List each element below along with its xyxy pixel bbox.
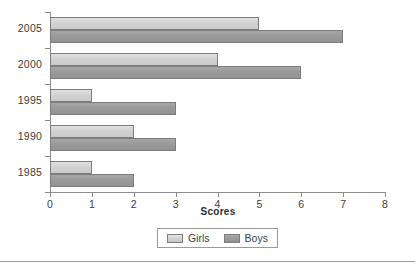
x-axis-tick [134,193,135,197]
legend-entry-girls: Girls [167,232,210,244]
bar-boys-1985 [50,174,134,187]
x-axis-tick [176,193,177,197]
y-axis-label-2000: 2000 [0,58,42,70]
x-axis-tick [385,193,386,197]
legend-swatch-boys-icon [224,234,240,243]
bar-boys-2005 [50,30,343,43]
bar-boys-1990 [50,138,176,151]
legend-label-boys: Boys [245,232,268,244]
bar-girls-1995 [50,89,92,102]
x-axis-title: Scores [50,206,386,217]
bar-boys-2000 [50,66,301,79]
y-axis-label-2005: 2005 [0,22,42,34]
bar-boys-1995 [50,102,176,115]
legend-swatch-girls-icon [167,234,183,243]
x-axis-tick [218,193,219,197]
bar-girls-2005 [50,17,259,30]
y-axis-label-1985: 1985 [0,166,42,178]
x-axis-tick [343,193,344,197]
plot-area [50,12,385,192]
x-axis-tick [92,193,93,197]
x-axis-tick [50,193,51,197]
y-axis-label-1995: 1995 [0,94,42,106]
legend-label-girls: Girls [188,232,210,244]
bar-girls-1990 [50,125,134,138]
bar-girls-2000 [50,53,218,66]
chart-figure: 2005 2000 1995 1990 1985 [0,0,415,269]
legend-entry-boys: Boys [224,232,268,244]
y-axis-label-1990: 1990 [0,130,42,142]
bar-girls-1985 [50,161,92,174]
chart-legend: Girls Boys [157,228,278,248]
x-axis-tick [259,193,260,197]
x-axis-tick [301,193,302,197]
bottom-divider [0,261,415,262]
